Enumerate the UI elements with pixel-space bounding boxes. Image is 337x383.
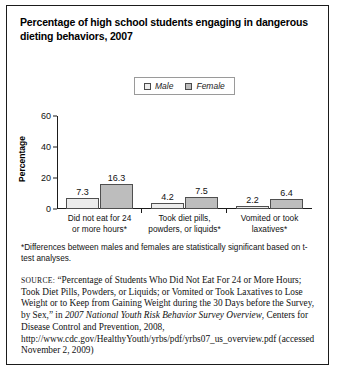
footnote-text: *Differences between males and females a… (21, 242, 317, 264)
bar-group: 2.26.4 (227, 116, 312, 209)
figure-container: Percentage of high school students engag… (6, 5, 329, 365)
x-axis-label: Took diet pills,powders, or liquids* (142, 213, 227, 234)
bar-groups: 7.316.34.27.52.26.4 (57, 116, 312, 209)
source-citation: SOURCE: “Percentage of Students Who Did … (21, 275, 319, 357)
bar-value-label: 7.3 (76, 187, 89, 197)
bar-value-label: 4.2 (161, 192, 174, 202)
chart-plot-area: Percentage 0204060 7.316.34.27.52.26.4 D… (7, 110, 330, 234)
x-axis-labels: Did not eat for 24or more hours*Took die… (57, 213, 312, 234)
bar-female: 16.3 (100, 184, 133, 209)
bar-group: 4.27.5 (142, 116, 227, 209)
bar-male: 4.2 (151, 203, 184, 210)
chart-axes: 0204060 7.316.34.27.52.26.4 (57, 116, 312, 209)
bar-value-label: 2.2 (246, 195, 259, 205)
bar-female: 6.4 (270, 199, 303, 209)
legend-label-female: Female (196, 81, 224, 91)
legend-swatch-female-icon (185, 83, 192, 90)
bar-male: 7.3 (66, 198, 99, 209)
bar-male: 2.2 (236, 206, 269, 209)
legend-swatch-male-icon (144, 83, 151, 90)
legend-label-male: Male (155, 81, 173, 91)
bar-value-label: 16.3 (108, 173, 126, 183)
source-label: SOURCE: (21, 276, 55, 285)
legend-item-male: Male (144, 81, 173, 91)
x-axis-label: Vomited or tooklaxatives* (227, 213, 312, 234)
source-publication-title: 2007 National Youth Risk Behavior Survey… (65, 310, 262, 320)
x-axis-label: Did not eat for 24or more hours* (57, 213, 142, 234)
bar-group: 7.316.3 (57, 116, 142, 209)
chart-legend: Male Female (134, 77, 235, 95)
bar-female: 7.5 (185, 197, 218, 209)
legend-item-female: Female (185, 81, 224, 91)
bar-value-label: 7.5 (195, 186, 208, 196)
y-axis-label: Percentage (17, 128, 27, 190)
figure-title: Percentage of high school students engag… (20, 16, 312, 43)
bar-value-label: 6.4 (280, 188, 293, 198)
